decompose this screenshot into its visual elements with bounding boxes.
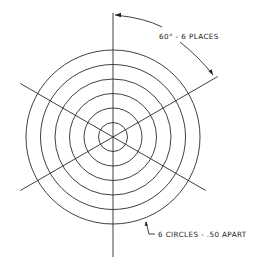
angle-dimension-arc-lower xyxy=(180,42,213,75)
radial-lines xyxy=(20,13,217,257)
polar-grid-drawing: 60° - 6 PLACES 6 CIRCLES - .50 APART xyxy=(0,0,276,276)
angle-dimension-arc xyxy=(115,15,162,27)
circle-note: 6 CIRCLES - .50 APART xyxy=(158,230,247,239)
arrowhead-icon xyxy=(115,13,121,17)
arrowhead-icon xyxy=(145,221,148,226)
circle-note-leader xyxy=(146,222,155,234)
angle-note: 60° - 6 PLACES xyxy=(159,32,219,41)
